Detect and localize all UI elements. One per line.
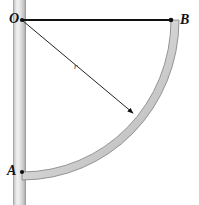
label-point-B: B	[180, 13, 189, 27]
point-B-dot	[169, 18, 174, 23]
quarter-arc-band	[22, 20, 179, 180]
label-radius-r: r	[74, 62, 78, 71]
point-A-dot	[20, 170, 24, 174]
label-point-O: O	[9, 12, 19, 26]
point-O-dot	[20, 18, 24, 22]
radius-arrow	[23, 21, 133, 113]
label-point-A: A	[7, 164, 16, 178]
figure-container: O B A r	[0, 0, 199, 205]
figure-drawing	[0, 0, 199, 205]
